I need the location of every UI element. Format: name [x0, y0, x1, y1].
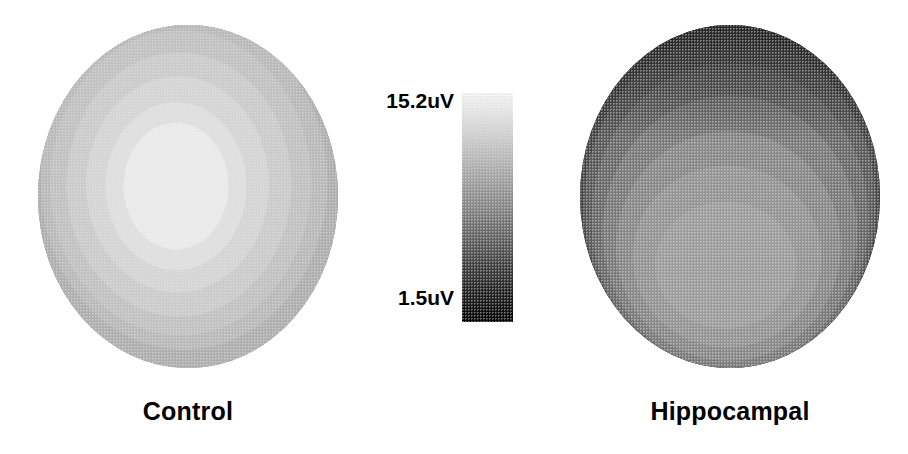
colorbar-gradient — [462, 93, 513, 322]
colorbar-max-label: 15.2uV — [370, 89, 454, 113]
colorbar-group — [462, 93, 513, 322]
colorbar-min-label: 1.5uV — [370, 286, 454, 310]
superior-dark-band — [580, 25, 880, 142]
contour-band — [655, 202, 796, 329]
figure-canvas: Control 15.2uV 1.5uV Hippocampal — [0, 0, 908, 454]
map-disc-hippocampal — [580, 25, 880, 368]
panel-label-hippocampal: Hippocampal — [580, 397, 880, 426]
topographic-map-hippocampal: Hippocampal — [580, 25, 880, 368]
panel-label-control: Control — [38, 397, 338, 426]
topographic-map-control: Control — [38, 25, 338, 368]
contour-plot-hippocampal — [580, 25, 880, 368]
contour-band — [124, 123, 229, 250]
map-disc-control — [38, 25, 338, 368]
contour-plot-control — [38, 25, 338, 368]
colorbar-texture — [462, 93, 513, 322]
